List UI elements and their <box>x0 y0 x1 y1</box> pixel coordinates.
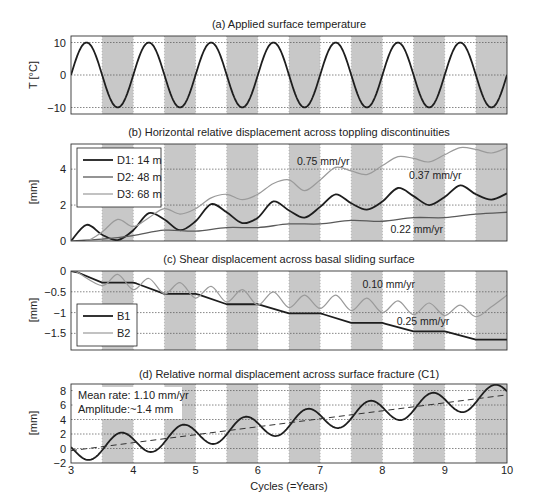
figure-canvas: (a) Applied surface temperature T [°C] −… <box>0 0 536 504</box>
rate-annotation: 0.10 mm/yr <box>362 278 415 290</box>
y-tick-label: 0 <box>60 69 66 81</box>
panel-a: (a) Applied surface temperature T [°C] −… <box>27 18 507 114</box>
legend-label: D3: 68 m <box>117 188 162 200</box>
y-tick-label: 4 <box>60 414 66 426</box>
shaded-band <box>227 144 258 241</box>
y-tick-label: −0.5 <box>44 286 66 298</box>
annotation-text: Amplitude:~1.4 mm <box>78 403 173 415</box>
panel-a-plot-area: −10010 <box>47 36 507 114</box>
y-tick-label: −10 <box>47 102 66 114</box>
x-tick-label: 10 <box>501 464 513 476</box>
y-tick-label: 2 <box>60 428 66 440</box>
shaded-band <box>289 271 320 350</box>
annotation-text: Mean rate: 1.10 mm/yr <box>78 389 189 401</box>
y-tick-label: 6 <box>60 399 66 411</box>
shaded-band <box>476 271 507 350</box>
figure: (a) Applied surface temperature T [°C] −… <box>0 0 536 504</box>
shaded-band <box>351 384 382 463</box>
x-axis-ticks: 345678910 <box>68 464 513 476</box>
shaded-band <box>414 271 445 350</box>
shaded-band <box>227 271 258 350</box>
shaded-band <box>476 144 507 241</box>
panel-a-ylabel: T [°C] <box>27 61 39 89</box>
y-tick-label: −1.5 <box>44 327 66 339</box>
y-tick-label: 10 <box>54 37 66 49</box>
panel-d-ylabel: [mm] <box>27 411 39 435</box>
legend: B1B2 <box>77 304 137 346</box>
x-tick-label: 4 <box>130 464 136 476</box>
y-tick-label: 0 <box>60 443 66 455</box>
y-tick-label: −1 <box>53 307 66 319</box>
panel-d-title: (d) Relative normal displacement across … <box>139 368 439 380</box>
y-tick-label: −2 <box>53 457 66 469</box>
panel-c-ylabel: [mm] <box>27 298 39 322</box>
x-tick-label: 5 <box>193 464 199 476</box>
panel-b-title: (b) Horizontal relative displacement acr… <box>128 126 450 138</box>
x-axis-label: Cycles (=Years) <box>250 480 328 492</box>
panel-a-title: (a) Applied surface temperature <box>212 18 366 30</box>
x-tick-label: 9 <box>442 464 448 476</box>
shaded-band <box>227 384 258 463</box>
y-tick-label: 2 <box>60 199 66 211</box>
legend-label: B1 <box>117 310 130 322</box>
x-tick-label: 3 <box>68 464 74 476</box>
legend-label: D2: 48 m <box>117 171 162 183</box>
panel-d: (d) Relative normal displacement across … <box>27 368 513 492</box>
legend: D1: 14 mD2: 48 mD3: 68 m <box>77 148 162 207</box>
rate-annotation: 0.75 mm/yr <box>297 155 350 167</box>
panel-c-title: (c) Shear displacement across basal slid… <box>163 253 414 265</box>
y-tick-label: 0 <box>60 235 66 247</box>
panel-d-plot-area: −202468Mean rate: 1.10 mm/yrAmplitude:~1… <box>53 384 507 469</box>
rate-annotation: 0.22 mm/yr <box>390 223 443 235</box>
x-tick-label: 8 <box>379 464 385 476</box>
panel-b: (b) Horizontal relative displacement acr… <box>27 126 507 247</box>
panel-b-plot-area: 0240.75 mm/yr0.37 mm/yr0.22 mm/yrD1: 14 … <box>60 144 507 247</box>
x-tick-label: 6 <box>255 464 261 476</box>
shaded-band <box>351 144 382 241</box>
rate-annotation: 0.37 mm/yr <box>409 169 462 181</box>
legend-label: D1: 14 m <box>117 154 162 166</box>
y-tick-label: 0 <box>60 265 66 277</box>
panel-c: (c) Shear displacement across basal slid… <box>27 253 507 350</box>
y-tick-label: 4 <box>60 163 66 175</box>
panel-c-plot-area: −1.5−1−0.500.10 mm/yr0.25 mm/yrB1B2 <box>44 265 507 350</box>
y-tick-label: 8 <box>60 385 66 397</box>
shaded-band <box>289 384 320 463</box>
x-tick-label: 7 <box>317 464 323 476</box>
legend-label: B2 <box>117 327 130 339</box>
panel-b-ylabel: [mm] <box>27 180 39 204</box>
rate-annotation: 0.25 mm/yr <box>397 315 450 327</box>
shaded-band <box>164 144 195 241</box>
